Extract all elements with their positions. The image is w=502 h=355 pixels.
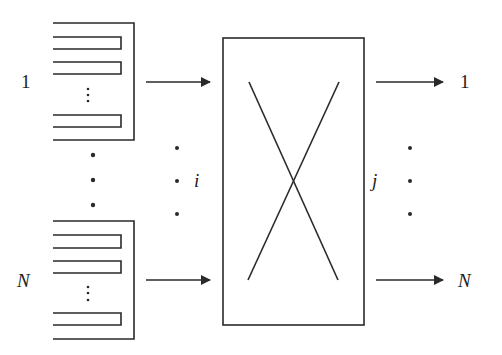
ellipsis-inputs: [91, 153, 95, 207]
input-queue-n: [53, 221, 134, 339]
switch-diagram: [0, 0, 502, 355]
output-index-label: j: [372, 170, 377, 192]
output-label-last: N: [458, 270, 471, 292]
ellipsis-outputs: [408, 146, 412, 216]
input-index-label: i: [194, 170, 199, 192]
input-queue-1: [53, 23, 134, 140]
input-label-last: N: [17, 270, 30, 292]
input-label-first: 1: [21, 71, 31, 93]
output-label-first: 1: [460, 71, 470, 93]
ellipsis-i: [175, 146, 179, 216]
